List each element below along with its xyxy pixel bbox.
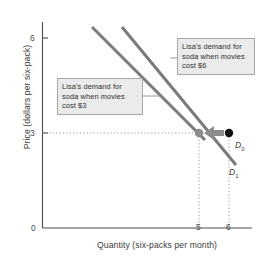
point-d0-marker: [225, 129, 233, 137]
curve-label-d0: D0: [235, 140, 244, 152]
y-tick-label-3: 3: [30, 128, 35, 138]
callout-demand-movies-cost-3: Lisa's demand for soda when movies cost …: [57, 78, 143, 115]
curve-label-d1: D1: [229, 167, 238, 179]
x-tick-label-6: 6: [226, 222, 231, 232]
curve-label-d1-subscript: 1: [235, 173, 238, 179]
point-d1-marker: [195, 129, 203, 137]
x-tick-label-5: 5: [196, 222, 201, 232]
callout-demand-movies-cost-6: Lisa's demand for soda when movies cost …: [177, 38, 255, 75]
curve-label-d0-subscript: 0: [241, 146, 244, 152]
x-axis-label: Quantity (six-packs per month): [97, 240, 257, 250]
demand-shift-chart: Price (dollars per six-pack) Quantity (s…: [0, 0, 264, 262]
y-tick-label-6: 6: [30, 33, 35, 43]
origin-label: 0: [31, 223, 36, 233]
